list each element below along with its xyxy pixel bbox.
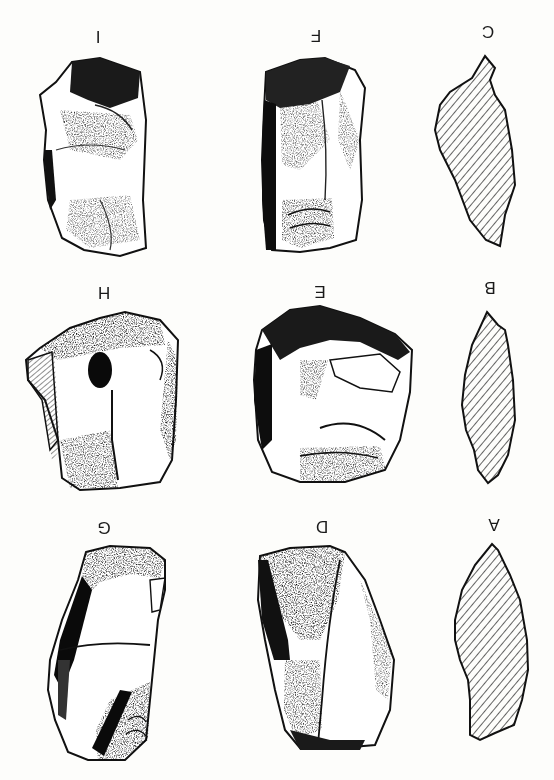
label-I: I (88, 28, 108, 45)
artifact-I-drawing (40, 58, 146, 256)
cross-section-C (435, 56, 515, 246)
label-F: F (306, 27, 326, 44)
cross-section-A (455, 544, 528, 740)
artifact-H-drawing (26, 312, 178, 490)
plate-drawings (0, 0, 554, 780)
artifact-G-drawing (48, 546, 165, 760)
label-G: G (94, 519, 114, 536)
artifact-E-drawing (254, 306, 412, 482)
label-A: A (484, 516, 504, 533)
lithic-illustration-plate: I F C H E B G D A (0, 0, 554, 780)
label-B: B (480, 279, 500, 296)
label-H: H (94, 284, 114, 301)
cross-section-B (462, 312, 515, 483)
label-D: D (312, 518, 332, 535)
artifact-F-drawing (262, 58, 365, 252)
artifact-D-drawing (258, 546, 394, 750)
label-C: C (478, 23, 498, 40)
label-E: E (310, 283, 330, 300)
